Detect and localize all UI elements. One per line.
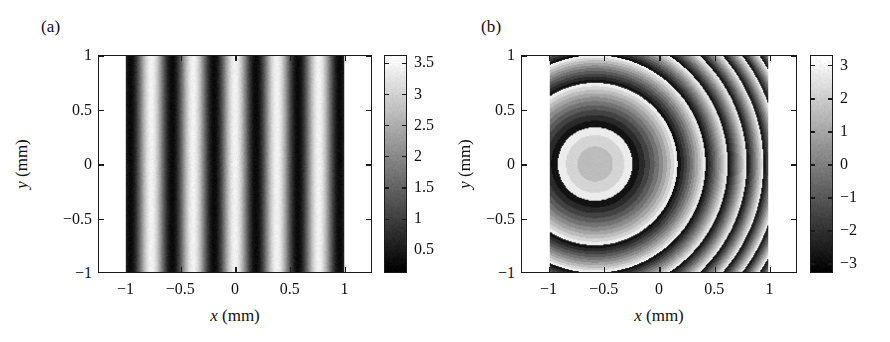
- panel-b-ytick-3: [522, 110, 527, 111]
- panel-b-yticklabel-3: 0.5: [475, 101, 515, 119]
- panel-b-xticklabel-4: 1: [765, 280, 773, 298]
- panel-b-cbtick-left-5: [811, 98, 815, 99]
- panel-a-xticklabel-2: 0: [231, 280, 239, 298]
- panel-b-xticklabel-1: −0.5: [589, 280, 618, 298]
- panel-a-cbtick-2: [402, 187, 406, 188]
- panel-a-cbticklabel-3: 2: [414, 147, 422, 165]
- panel-b-cbticklabel-4: 1: [840, 122, 848, 140]
- panel-a-yaxis-label: y (mm): [12, 139, 32, 189]
- panel-a-ytick-3: [99, 110, 104, 111]
- panel-a-yticklabel-3: 0.5: [52, 101, 92, 119]
- panel-a-xtick-3: [290, 267, 291, 272]
- panel-a-ytick-right-4: [366, 55, 371, 56]
- panel-a-yticklabel-1: −0.5: [52, 210, 92, 228]
- panel-b: (b) x (mm) y (mm) −1−0.500.51−1−0.500.51…: [445, 0, 890, 342]
- panel-a-xtick-top-3: [290, 56, 291, 61]
- panel-a-ytick-right-1: [366, 219, 371, 220]
- panel-b-ytick-right-2: [791, 164, 796, 165]
- panel-a-xaxis-label: x (mm): [210, 306, 260, 326]
- panel-b-letter: (b): [481, 17, 501, 37]
- panel-b-yaxis-unit: (mm): [455, 139, 474, 181]
- panel-b-yticklabel-0: −1: [475, 264, 515, 282]
- panel-a-colorbar-gradient: [385, 56, 406, 272]
- panel-b-cbtick-5: [828, 98, 832, 99]
- panel-b-cbtick-4: [828, 131, 832, 132]
- panel-b-cbtick-left-3: [811, 164, 815, 165]
- panel-b-yticklabel-4: 1: [475, 46, 515, 64]
- panel-b-yaxis-label: y (mm): [455, 139, 475, 189]
- panel-a-ytick-right-3: [366, 110, 371, 111]
- panel-a-cbtick-left-6: [385, 63, 389, 64]
- panel-a-cbticklabel-5: 3: [414, 85, 422, 103]
- panel-b-xaxis-label: x (mm): [634, 306, 684, 326]
- panel-b-yaxis-var: y: [455, 181, 474, 189]
- panel-a-xticklabel-0: −1: [117, 280, 134, 298]
- panel-a-xaxis-unit: (mm): [218, 306, 260, 325]
- panel-a-xtick-top-0: [126, 56, 127, 61]
- panel-b-xticklabel-2: 0: [655, 280, 663, 298]
- panel-b-yticklabel-2: 0: [475, 155, 515, 173]
- panel-b-colorbar: [810, 55, 833, 273]
- panel-a-yaxis-unit: (mm): [12, 139, 31, 181]
- panel-a-xaxis-var: x: [210, 306, 218, 325]
- panel-a-cbtick-5: [402, 94, 406, 95]
- panel-a-cbtick-left-3: [385, 156, 389, 157]
- panel-a-xticklabel-4: 1: [341, 280, 349, 298]
- panel-a-letter: (a): [41, 17, 60, 37]
- panel-b-xticklabel-0: −1: [540, 280, 557, 298]
- panel-b-xtick-3: [715, 267, 716, 272]
- panel-a-yticklabel-0: −1: [52, 264, 92, 282]
- panel-b-ytick-right-1: [791, 219, 796, 220]
- panel-b-xtick-2: [659, 267, 660, 272]
- panel-a: (a) x (mm) y (mm) −1−0.500.51−1−0.500.51…: [0, 0, 445, 342]
- panel-a-cbticklabel-4: 2.5: [414, 116, 434, 134]
- panel-a-cbticklabel-1: 1: [414, 209, 422, 227]
- panel-b-cbtick-1: [828, 230, 832, 231]
- panel-b-xticklabel-3: 0.5: [704, 280, 724, 298]
- panel-a-xtick-4: [345, 267, 346, 272]
- panel-a-ytick-4: [99, 55, 104, 56]
- panel-b-cbtick-left-1: [811, 230, 815, 231]
- figure-root: (a) x (mm) y (mm) −1−0.500.51−1−0.500.51…: [0, 0, 890, 342]
- panel-b-cbtick-3: [828, 164, 832, 165]
- panel-b-cbticklabel-3: 0: [840, 155, 848, 173]
- panel-b-yticklabel-1: −0.5: [475, 210, 515, 228]
- panel-b-cbticklabel-0: −3: [840, 254, 857, 272]
- panel-a-colorbar: [384, 55, 407, 273]
- panel-a-cbtick-3: [402, 156, 406, 157]
- panel-b-xtick-top-3: [715, 56, 716, 61]
- panel-b-cbtick-left-6: [811, 65, 815, 66]
- panel-a-cbticklabel-2: 1.5: [414, 178, 434, 196]
- panel-b-ytick-right-4: [791, 55, 796, 56]
- panel-b-xtick-top-4: [770, 56, 771, 61]
- panel-b-xtick-top-0: [549, 56, 550, 61]
- panel-a-xtick-top-2: [235, 56, 236, 61]
- panel-b-ytick-1: [522, 219, 527, 220]
- panel-b-cbticklabel-5: 2: [840, 89, 848, 107]
- panel-a-cbtick-4: [402, 125, 406, 126]
- wrapped-phase-image: [522, 56, 796, 272]
- panel-b-cbticklabel-6: 3: [840, 56, 848, 74]
- panel-a-ytick-right-2: [366, 164, 371, 165]
- panel-b-cbtick-6: [828, 65, 832, 66]
- panel-a-xtick-top-1: [181, 56, 182, 61]
- panel-a-cbtick-left-5: [385, 94, 389, 95]
- panel-a-xtick-2: [235, 267, 236, 272]
- panel-b-ytick-4: [522, 55, 527, 56]
- panel-b-cbticklabel-2: −1: [840, 188, 857, 206]
- panel-a-xtick-1: [181, 267, 182, 272]
- panel-b-cbtick-left-4: [811, 131, 815, 132]
- panel-b-xtick-4: [770, 267, 771, 272]
- panel-b-xtick-0: [549, 267, 550, 272]
- panel-a-cbticklabel-0: 0.5: [414, 240, 434, 258]
- panel-b-plot-area: [521, 55, 797, 273]
- panel-a-cbticklabel-6: 3.5: [414, 53, 434, 71]
- panel-a-xtick-0: [126, 267, 127, 272]
- panel-a-cbtick-left-4: [385, 125, 389, 126]
- panel-b-ytick-right-3: [791, 110, 796, 111]
- interferogram-image: [99, 56, 371, 272]
- panel-a-xticklabel-3: 0.5: [280, 280, 300, 298]
- panel-b-cbtick-0: [828, 263, 832, 264]
- panel-b-xaxis-var: x: [634, 306, 642, 325]
- panel-b-xtick-top-1: [604, 56, 605, 61]
